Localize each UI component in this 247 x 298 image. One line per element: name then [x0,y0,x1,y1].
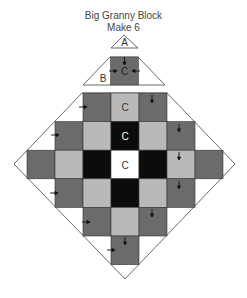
grid-cell [27,150,55,179]
grid-cell [195,150,223,179]
grid-cell [167,122,195,151]
grid-cell [167,150,195,179]
cell-label: C [121,131,128,142]
grid-cell [55,150,83,179]
grid-cell [139,179,167,208]
grid-cell [139,150,167,179]
piece-b-label: B [100,73,107,84]
grid-cell [83,150,111,179]
grid-cell [83,122,111,151]
piece-a-triangle: A [111,35,138,48]
grid-cell [139,122,167,151]
grid-labels: CCC [121,102,128,170]
piece-b-unit: B C [83,57,165,85]
cell-label: C [121,160,128,171]
cell-label: C [121,102,128,113]
quilt-diagram: A B C CCC [0,0,247,298]
grid-cell [139,93,167,122]
grid-cell [83,179,111,208]
grid-cell [167,179,195,208]
grid-cell [55,122,83,151]
grid-cell [139,207,167,236]
piece-c-label: C [121,66,128,77]
piece-a-label: A [121,37,128,48]
big-granny-block: CCC [14,93,235,279]
grid-cell [111,179,139,208]
grid-cell [111,207,139,236]
grid-cell [55,179,83,208]
